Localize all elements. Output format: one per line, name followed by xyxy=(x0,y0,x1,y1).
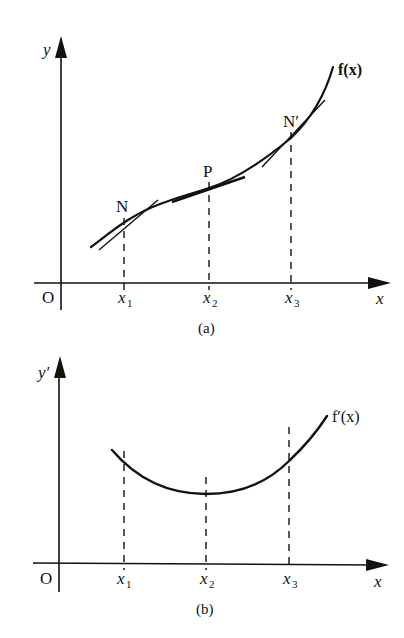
tick-label-x1-b: x 1 xyxy=(116,569,132,590)
point-label-n-prime: N′ xyxy=(283,112,299,131)
derivative-diagram: N P N′ f(x) y x O x 1 x 2 x 3 (a) xyxy=(0,0,404,638)
curve-f-prime xyxy=(112,416,327,494)
curve-label-f-prime: f′(x) xyxy=(332,408,359,426)
svg-text:2: 2 xyxy=(212,297,218,309)
x-axis-arrow-icon xyxy=(368,277,391,289)
caption-a: (a) xyxy=(198,320,215,337)
svg-text:x: x xyxy=(116,569,125,588)
tick-label-x3-a: x 3 xyxy=(284,288,300,309)
x-axis-b xyxy=(33,563,375,565)
tangent-n xyxy=(99,200,158,250)
tick-label-x1-a: x 1 xyxy=(117,288,133,309)
y-axis-arrow-icon xyxy=(54,356,66,378)
x-axis-label-a: x xyxy=(375,289,384,308)
point-label-p: P xyxy=(203,162,212,181)
svg-text:x: x xyxy=(199,569,208,588)
point-label-n: N xyxy=(116,197,128,216)
svg-text:x: x xyxy=(202,288,211,307)
panel-a: N P N′ f(x) y x O x 1 x 2 x 3 (a) xyxy=(34,36,391,337)
x-axis-arrow-icon xyxy=(366,559,389,571)
tick-label-x3-b: x 3 xyxy=(282,569,298,590)
svg-text:2: 2 xyxy=(209,578,215,590)
y-axis-label-a: y xyxy=(41,40,51,59)
panel-b: f′(x) y′ x O x 1 x 2 x 3 (b) xyxy=(33,356,389,618)
svg-text:1: 1 xyxy=(127,297,133,309)
y-axis-label-b: y′ xyxy=(36,363,50,382)
tick-label-x2-a: x 2 xyxy=(202,288,218,309)
curve-f xyxy=(91,67,333,247)
origin-label-a: O xyxy=(42,288,54,307)
caption-b: (b) xyxy=(196,601,214,618)
svg-text:3: 3 xyxy=(292,578,298,590)
curve-label-f: f(x) xyxy=(338,61,362,79)
svg-text:3: 3 xyxy=(294,297,300,309)
svg-text:1: 1 xyxy=(126,578,132,590)
svg-text:x: x xyxy=(282,569,291,588)
x-axis-label-b: x xyxy=(373,572,382,591)
svg-text:x: x xyxy=(117,288,126,307)
tick-label-x2-b: x 2 xyxy=(199,569,215,590)
tangent-n-prime xyxy=(262,100,325,167)
origin-label-b: O xyxy=(40,569,52,588)
svg-text:x: x xyxy=(284,288,293,307)
y-axis-arrow-icon xyxy=(55,36,67,58)
